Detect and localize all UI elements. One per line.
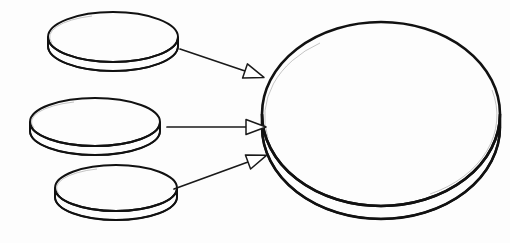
arrow-middle [167,120,266,135]
large-disc-side-wall [262,114,500,219]
small-disc-top [48,12,178,71]
arrow-top-shaft [180,49,245,71]
small-disc-middle [30,98,160,155]
large-disc-shading-arc-right [430,90,497,194]
small-disc-middle-shading-arc [31,102,74,128]
small-disc-middle-top-face [30,98,160,146]
arrow-bottom-shaft [174,162,248,189]
small-disc-bottom-top-face [55,165,177,211]
small-disc-top-top-face [48,12,178,62]
disc-assembly-diagram [0,0,510,243]
arrow-bottom [174,155,267,189]
small-disc-bottom-shading-arc [57,169,97,194]
small-disc-bottom [55,165,177,220]
small-disc-middle-bottom-rim [30,131,160,155]
diagram-canvas [0,0,510,243]
small-disc-bottom-bottom-rim [55,197,177,220]
small-disc-top-bottom-rim [48,46,178,71]
large-disc-shading-arc [265,43,320,138]
arrow-bottom-head [245,155,266,169]
large-disc [262,22,500,219]
small-disc-top-shading-arc [50,16,92,43]
large-disc-top-face [262,22,500,206]
arrow-top [180,49,264,78]
arrow-top-head [243,64,264,78]
